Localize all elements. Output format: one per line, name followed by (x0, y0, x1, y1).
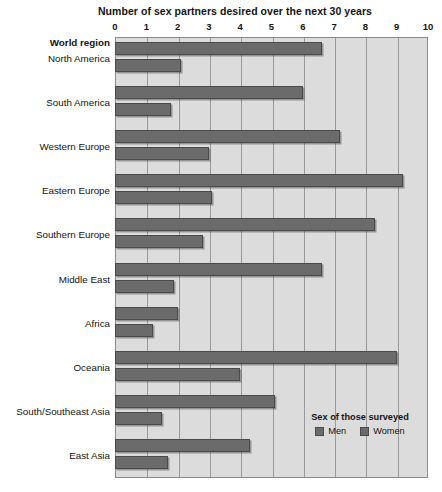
bar-group (115, 37, 428, 81)
bar-men (115, 86, 303, 99)
legend-item-men[interactable]: Men (315, 426, 346, 436)
x-tick-0: 0 (112, 21, 117, 32)
bar-women (115, 59, 181, 72)
bar-men (115, 130, 340, 143)
x-tick-1: 1 (144, 21, 149, 32)
y-axis-title: World region (0, 37, 110, 48)
category-label: North America (0, 53, 110, 64)
legend-label: Women (373, 426, 405, 436)
bar-group (115, 125, 428, 169)
legend: Sex of those surveyed MenWomen (296, 412, 424, 436)
legend-swatch-icon (315, 427, 324, 436)
bar-men (115, 42, 322, 55)
legend-label: Men (328, 426, 346, 436)
bar-group (115, 346, 428, 390)
bar-women (115, 235, 203, 248)
bar-women (115, 324, 153, 337)
x-tick-8: 8 (363, 21, 368, 32)
bar-women (115, 103, 171, 116)
bar-women (115, 280, 174, 293)
bar-group (115, 302, 428, 346)
category-label: Southern Europe (0, 229, 110, 240)
x-tick-6: 6 (300, 21, 305, 32)
chart-title: Number of sex partners desired over the … (0, 5, 442, 17)
category-label: Africa (0, 318, 110, 329)
bar-women (115, 147, 209, 160)
category-label: Oceania (0, 362, 110, 373)
x-tick-2: 2 (175, 21, 180, 32)
category-label: South/Southeast Asia (0, 406, 110, 417)
bar-women (115, 456, 168, 469)
legend-items: MenWomen (296, 426, 424, 436)
bar-men (115, 439, 250, 452)
x-tick-4: 4 (238, 21, 243, 32)
x-tick-5: 5 (269, 21, 274, 32)
bar-women (115, 412, 162, 425)
category-label: South America (0, 97, 110, 108)
legend-item-women[interactable]: Women (360, 426, 405, 436)
bar-women (115, 191, 212, 204)
bar-group (115, 169, 428, 213)
bar-men (115, 307, 178, 320)
bar-men (115, 218, 375, 231)
category-label: Middle East (0, 274, 110, 285)
category-label: East Asia (0, 450, 110, 461)
bar-men (115, 351, 397, 364)
x-axis-tick-labels: 012345678910 (115, 21, 428, 36)
x-tick-10: 10 (423, 21, 434, 32)
x-tick-9: 9 (394, 21, 399, 32)
bar-men (115, 395, 275, 408)
legend-title: Sex of those surveyed (296, 412, 424, 422)
bar-men (115, 263, 322, 276)
bar-group (115, 213, 428, 257)
y-axis-category-labels: World region North AmericaSouth AmericaW… (0, 37, 110, 478)
bar-group (115, 81, 428, 125)
bar-group (115, 258, 428, 302)
x-tick-3: 3 (206, 21, 211, 32)
bar-men (115, 174, 403, 187)
category-label: Western Europe (0, 141, 110, 152)
legend-swatch-icon (360, 427, 369, 436)
chart-root: Number of sex partners desired over the … (0, 0, 442, 492)
x-tick-7: 7 (331, 21, 336, 32)
bar-group (115, 434, 428, 478)
category-label: Eastern Europe (0, 185, 110, 196)
bar-women (115, 368, 240, 381)
